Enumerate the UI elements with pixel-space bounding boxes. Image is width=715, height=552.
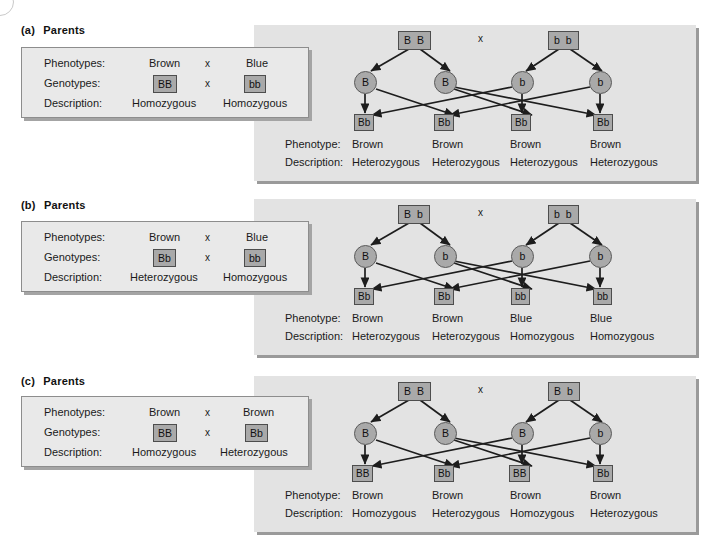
- parent-genotype-chip-left: BB: [153, 75, 177, 93]
- parent-genotype-box: b b: [548, 205, 579, 224]
- gamete-circle: B: [511, 422, 534, 445]
- parent-genotype-chip-right: bb: [244, 75, 266, 93]
- parent-phenotype-left: Brown: [149, 57, 180, 69]
- cross-diagram-panel-b: B b x b b B b b b Bb Bb bb bb Phenotype:…: [254, 199, 696, 355]
- gamete-circle: B: [354, 245, 377, 268]
- cross-symbol: x: [205, 58, 210, 69]
- gamete-circle: b: [434, 245, 457, 268]
- offspring-genotype-box: Bb: [354, 114, 374, 131]
- parent-description-left: Homozygous: [132, 97, 196, 109]
- phenotypes-row-label: Phenotypes:: [44, 57, 105, 69]
- cross-symbol: x: [478, 207, 483, 218]
- parent-description-right: Heterozygous: [220, 446, 288, 458]
- offspring-phenotype: Blue: [510, 312, 532, 324]
- parent-phenotype-right: Brown: [243, 406, 274, 418]
- offspring-genotype-box: Bb: [354, 288, 374, 305]
- panel-label-b: (b) Parents: [21, 199, 86, 211]
- parents-info-box-a: Phenotypes: Genotypes: Description: Brow…: [21, 47, 309, 118]
- panel-label-a: (a) Parents: [21, 24, 85, 36]
- panel-letter-a: (a): [21, 24, 35, 36]
- offspring-description: Heterozygous: [432, 330, 500, 342]
- phenotype-row-label: Phenotype:: [285, 312, 341, 324]
- panel-label-c: (c) Parents: [21, 375, 85, 387]
- offspring-description: Homozygous: [510, 330, 574, 342]
- gamete-circle: b: [589, 422, 612, 445]
- gamete-circle: b: [589, 245, 612, 268]
- panel-letter-c: (c): [21, 375, 35, 387]
- parent-genotype-box: B B: [398, 382, 431, 401]
- genotypes-row-label: Genotypes:: [44, 426, 100, 438]
- offspring-phenotype: Brown: [432, 489, 463, 501]
- offspring-phenotype: Brown: [352, 312, 383, 324]
- parents-info-box-c: Phenotypes: Genotypes: Description: Brow…: [21, 396, 309, 467]
- description-row-label: Description:: [285, 156, 343, 168]
- offspring-description: Heterozygous: [432, 507, 500, 519]
- parent-description-right: Homozygous: [223, 271, 287, 283]
- description-row-label: Description:: [44, 446, 102, 458]
- offspring-genotype-box: Bb: [434, 288, 454, 305]
- parent-description-left: Heterozygous: [130, 271, 198, 283]
- cross-symbol: x: [205, 78, 210, 89]
- cross-symbol: x: [478, 384, 483, 395]
- panel-heading-a: Parents: [43, 24, 85, 36]
- offspring-phenotype: Brown: [510, 138, 541, 150]
- offspring-description: Heterozygous: [590, 507, 658, 519]
- page-corner-arc: [0, 0, 14, 16]
- offspring-phenotype: Brown: [510, 489, 541, 501]
- offspring-genotype-box: Bb: [511, 114, 531, 131]
- parent-genotype-box: B b: [398, 205, 430, 224]
- parent-genotype-chip-right: Bb: [245, 424, 268, 442]
- offspring-description: Homozygous: [510, 507, 574, 519]
- gamete-circle: B: [354, 71, 377, 94]
- description-row-label: Description:: [44, 97, 102, 109]
- offspring-phenotype: Brown: [590, 489, 621, 501]
- offspring-phenotype: Brown: [590, 138, 621, 150]
- parent-genotype-chip-left: BB: [153, 424, 177, 442]
- parent-genotype-box: B B: [398, 31, 431, 50]
- offspring-genotype-box: Bb: [593, 465, 613, 482]
- panel-letter-b: (b): [21, 199, 36, 211]
- cross-symbol: x: [478, 33, 483, 44]
- offspring-description: Homozygous: [352, 507, 416, 519]
- cross-diagram-panel-c: B B x B b B B B b BB Bb BB Bb Phenotype:…: [254, 376, 696, 532]
- offspring-description: Heterozygous: [510, 156, 578, 168]
- genotypes-row-label: Genotypes:: [44, 251, 100, 263]
- cross-symbol: x: [205, 407, 210, 418]
- offspring-description: Heterozygous: [590, 156, 658, 168]
- gamete-circle: b: [511, 245, 534, 268]
- phenotypes-row-label: Phenotypes:: [44, 406, 105, 418]
- parent-description-left: Homozygous: [132, 446, 196, 458]
- parent-phenotype-left: Brown: [149, 231, 180, 243]
- gamete-circle: b: [589, 71, 612, 94]
- gamete-circle: b: [511, 71, 534, 94]
- offspring-description: Heterozygous: [352, 330, 420, 342]
- cross-symbol: x: [205, 232, 210, 243]
- parent-phenotype-right: Blue: [246, 231, 268, 243]
- phenotype-row-label: Phenotype:: [285, 138, 341, 150]
- cross-symbol: x: [205, 427, 210, 438]
- parent-genotype-box: B b: [548, 382, 580, 401]
- parent-genotype-box: b b: [548, 31, 579, 50]
- parent-description-right: Homozygous: [223, 97, 287, 109]
- offspring-phenotype: Blue: [590, 312, 612, 324]
- offspring-genotype-box: Bb: [434, 114, 454, 131]
- gamete-circle: B: [354, 422, 377, 445]
- offspring-genotype-box: Bb: [593, 114, 613, 131]
- panel-heading-c: Parents: [43, 375, 85, 387]
- phenotypes-row-label: Phenotypes:: [44, 231, 105, 243]
- gamete-circle: B: [434, 422, 457, 445]
- offspring-genotype-box: BB: [352, 465, 373, 482]
- panel-heading-b: Parents: [44, 199, 86, 211]
- gamete-circle: B: [434, 71, 457, 94]
- offspring-phenotype: Brown: [432, 138, 463, 150]
- description-row-label: Description:: [44, 271, 102, 283]
- offspring-phenotype: Brown: [352, 489, 383, 501]
- parent-phenotype-left: Brown: [149, 406, 180, 418]
- offspring-description: Heterozygous: [432, 156, 500, 168]
- parents-info-box-b: Phenotypes: Genotypes: Description: Brow…: [21, 221, 309, 292]
- description-row-label: Description:: [285, 330, 343, 342]
- parent-phenotype-right: Blue: [246, 57, 268, 69]
- parent-genotype-chip-left: Bb: [153, 249, 176, 267]
- figure-page: B B x b b B B b b Bb Bb Bb Bb Phenotype:…: [0, 0, 715, 552]
- offspring-genotype-box: bb: [511, 288, 530, 305]
